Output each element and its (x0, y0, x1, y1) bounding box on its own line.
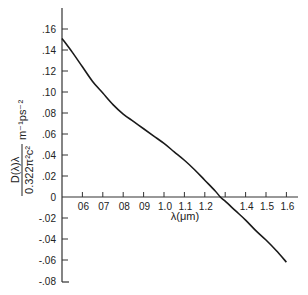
series (62, 38, 286, 262)
series-line (62, 38, 286, 262)
y-tick-label: .12 (42, 66, 56, 77)
x-tick-label: 07 (98, 201, 110, 212)
y-tick-label: 0 (50, 192, 56, 203)
x-tick-label: 1.5 (260, 201, 274, 212)
axes (62, 8, 298, 282)
y-tick-label: .08 (42, 108, 56, 119)
y-tick-label: .14 (42, 45, 56, 56)
y-tick-label: -.08 (39, 276, 57, 287)
x-ticks: 060708091.01.11.21.41.51.6 (78, 192, 295, 212)
x-tick-label: 08 (119, 201, 131, 212)
y-tick-label: .16 (42, 24, 56, 35)
x-tick-label: 06 (78, 201, 90, 212)
y-axis-label: D(λ)λ 0.322π²c² m⁻¹ps⁻² (9, 100, 35, 196)
y-label-denominator: 0.322π²c² (23, 146, 35, 194)
y-tick-label: -.02 (39, 213, 57, 224)
y-tick-label: -.04 (39, 234, 57, 245)
y-label-numerator: D(λ)λ (9, 156, 21, 183)
x-tick-label: 1.4 (240, 201, 254, 212)
y-tick-label: .06 (42, 129, 56, 140)
x-tick-label: 1.2 (199, 201, 213, 212)
chart: 060708091.01.11.21.41.51.6 .16.14.12.10.… (0, 0, 308, 295)
y-tick-label: .02 (42, 171, 56, 182)
x-axis-label: λ(μm) (171, 210, 199, 222)
y-tick-label: .04 (42, 150, 56, 161)
x-tick-label: 1.6 (280, 201, 294, 212)
y-tick-label: .10 (42, 87, 56, 98)
y-tick-label: -.06 (39, 255, 57, 266)
y-label-units: m⁻¹ps⁻² (16, 100, 28, 140)
x-tick-label: 09 (139, 201, 151, 212)
y-ticks: .16.14.12.10.08.06.04.020-.02-.04-.06-.0… (39, 24, 68, 287)
